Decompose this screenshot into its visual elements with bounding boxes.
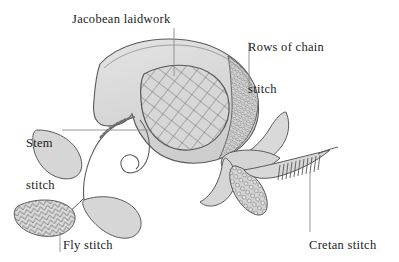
label-stem-line-1: Stem bbox=[26, 136, 55, 150]
label-rows-of-chain-stitch: Rows of chain stitch bbox=[248, 12, 324, 124]
main-petal-group bbox=[94, 39, 259, 163]
stitch-diagram-figure: Jacobean laidwork Rows of chain stitch S… bbox=[0, 0, 399, 262]
illustration-svg bbox=[0, 0, 399, 262]
label-cretan-stitch: Cretan stitch bbox=[309, 238, 376, 252]
label-stem-stitch: Stem stitch bbox=[26, 108, 55, 220]
label-chain-line-2: stitch bbox=[248, 82, 324, 96]
lower-middle-leaf bbox=[83, 197, 141, 238]
label-chain-line-1: Rows of chain bbox=[248, 40, 324, 54]
label-fly-stitch: Fly stitch bbox=[63, 238, 113, 252]
label-stem-line-2: stitch bbox=[26, 178, 55, 192]
label-jacobean-laidwork: Jacobean laidwork bbox=[72, 12, 170, 26]
tendril-spiral bbox=[121, 120, 149, 173]
